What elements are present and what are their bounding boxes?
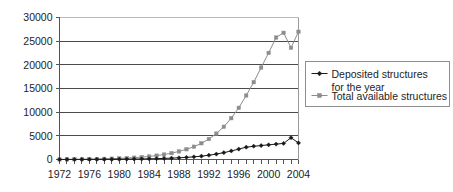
x-axis-label-1984: 1984 <box>137 168 161 180</box>
data-point-2003 <box>289 46 292 49</box>
y-axis-label-25000: 25000 <box>23 35 52 47</box>
y-axis-label-15000: 15000 <box>23 82 52 94</box>
data-point-1998 <box>252 81 255 84</box>
legend-marker-total-icon <box>318 94 322 98</box>
x-axis-label-1976: 1976 <box>78 168 102 180</box>
data-point-1988 <box>177 150 180 153</box>
y-axis-label-0: 0 <box>47 153 53 165</box>
x-axis-label-1972: 1972 <box>48 168 72 180</box>
x-axis-label-1996: 1996 <box>227 168 251 180</box>
data-point-1987 <box>170 151 173 154</box>
x-axis-label-1988: 1988 <box>167 168 191 180</box>
x-axis-label-2004: 2004 <box>287 168 311 180</box>
data-point-1994 <box>222 125 225 128</box>
data-point-1993 <box>215 132 218 135</box>
data-point-1996 <box>237 106 240 109</box>
data-point-2004 <box>297 30 300 33</box>
data-point-2000 <box>267 51 270 54</box>
y-axis-label-20000: 20000 <box>23 59 52 71</box>
data-point-2002 <box>282 31 285 34</box>
line-chart: 050001000015000200002500030000 197219761… <box>0 0 453 192</box>
legend-label-total: Total available structures <box>332 90 448 102</box>
x-axis-tick-labels: 197219761980198419881992199620002004 <box>48 168 311 180</box>
data-point-1997 <box>245 94 248 97</box>
legend-label-deposited-line1: Deposited structures <box>332 68 428 80</box>
data-point-2001 <box>274 36 277 39</box>
data-point-1986 <box>162 153 165 156</box>
x-axis-label-1992: 1992 <box>197 168 221 180</box>
data-point-1989 <box>185 148 188 151</box>
x-axis-label-2000: 2000 <box>257 168 281 180</box>
y-axis-label-30000: 30000 <box>23 11 52 23</box>
chart-container: 050001000015000200002500030000 197219761… <box>0 0 453 192</box>
data-point-1999 <box>259 66 262 69</box>
data-point-1992 <box>207 137 210 140</box>
y-axis-label-5000: 5000 <box>29 130 53 142</box>
data-point-1991 <box>200 142 203 145</box>
data-point-1995 <box>230 117 233 120</box>
x-axis-label-1980: 1980 <box>108 168 132 180</box>
data-point-1990 <box>192 145 195 148</box>
y-axis-label-10000: 10000 <box>23 106 52 118</box>
chart-legend: Deposited structuresfor the yearTotal av… <box>306 62 450 107</box>
